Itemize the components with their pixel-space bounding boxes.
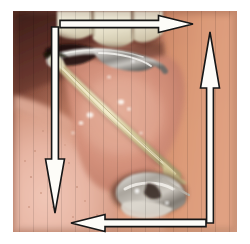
lower-specular-1 <box>135 189 140 194</box>
figure-root: Intraoral clinical photograph with force… <box>0 0 250 244</box>
lower-specular-2 <box>165 201 169 205</box>
tooth-central-right <box>93 11 133 48</box>
photograph-canvas <box>13 11 237 232</box>
clinical-photograph: Close-up colour photograph of a patient'… <box>13 11 237 232</box>
